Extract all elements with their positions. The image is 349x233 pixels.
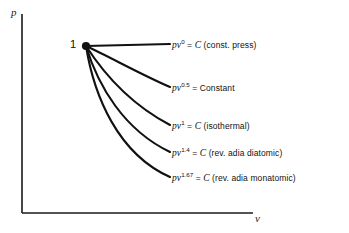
- curve-label-n05: pv0.5 = Constant: [172, 81, 235, 93]
- process-curve-n05: [86, 46, 170, 87]
- pv-diagram-figure: p v 1 pv0 = C (const. press) pv0.5 = Con…: [0, 0, 349, 233]
- curve-label-adiabatic-monatomic: pv1.67 = C (rev. adia monatomic): [172, 171, 296, 183]
- curve-label-adiabatic-diatomic: pv1.4 = C (rev. adia diatomic): [172, 146, 282, 158]
- process-curve-adiabatic-diatomic: [86, 46, 170, 152]
- curve-label-isothermal: pv1 = C (isothermal): [172, 119, 250, 131]
- state-point-dot: [82, 42, 90, 50]
- plot-canvas: [0, 0, 349, 233]
- curve-label-isobaric: pv0 = C (const. press): [172, 38, 256, 50]
- process-curve-isothermal: [86, 46, 170, 125]
- y-axis-label: p: [11, 6, 17, 18]
- x-axis-label: v: [255, 212, 260, 224]
- state-point-label: 1: [70, 38, 76, 50]
- process-curve-isobaric: [86, 44, 170, 46]
